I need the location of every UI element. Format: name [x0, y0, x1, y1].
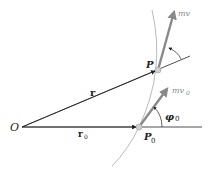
label-r0-sub: 0	[84, 133, 88, 140]
label-mv0: mv	[172, 86, 185, 95]
vector-r	[22, 71, 155, 127]
label-phi0: φ	[165, 111, 174, 122]
orbit-diagram: O P P 0 r r 0 mv mv 0 φ 0	[0, 0, 211, 169]
momentum-vector-mv0	[139, 89, 167, 127]
momentum-vector-mv	[158, 12, 174, 70]
label-r0: r	[78, 129, 83, 139]
point-p	[155, 67, 161, 73]
label-r: r	[90, 87, 96, 98]
point-p0	[136, 124, 142, 130]
label-p: P	[145, 59, 154, 70]
label-origin: O	[10, 121, 19, 134]
label-phi0-sub: 0	[175, 115, 179, 123]
label-p0-sub: 0	[151, 137, 155, 145]
label-mv0-sub: 0	[186, 89, 190, 96]
angle-arc-phi	[169, 48, 181, 59]
label-mv: mv	[178, 9, 191, 18]
angle-arc-phi0	[154, 107, 162, 127]
